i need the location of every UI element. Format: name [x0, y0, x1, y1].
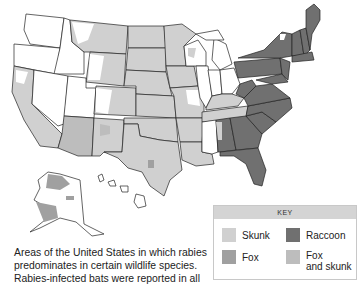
legend-label-fox-and-skunk-line1: Fox [306, 250, 352, 261]
caption-line-3: Rabies-infected bats were reported in al… [14, 272, 244, 285]
map-caption: Areas of the United States in which rabi… [14, 246, 244, 285]
caption-line-2: predominates in certain wildlife species… [14, 259, 244, 272]
legend-swatch-skunk [222, 228, 236, 242]
alaska [30, 172, 104, 236]
legend-label-fox-and-skunk: Fox and skunk [306, 250, 352, 272]
caption-line-1: Areas of the United States in which rabi… [14, 246, 244, 259]
legend-title: KEY [214, 206, 356, 219]
legend-label-fox-and-skunk-line2: and skunk [306, 261, 352, 272]
legend-label-fox: Fox [242, 252, 259, 263]
legend-label-raccoon: Raccoon [306, 230, 345, 241]
legend-swatch-fox-and-skunk [286, 250, 300, 264]
legend-label-skunk: Skunk [242, 230, 270, 241]
west-region [12, 14, 136, 156]
legend-swatch-fox [222, 250, 236, 264]
hawaii [98, 174, 146, 208]
map-legend: KEY Skunk Raccoon Fox Fox and skunk [213, 205, 357, 280]
legend-swatch-raccoon [286, 228, 300, 242]
